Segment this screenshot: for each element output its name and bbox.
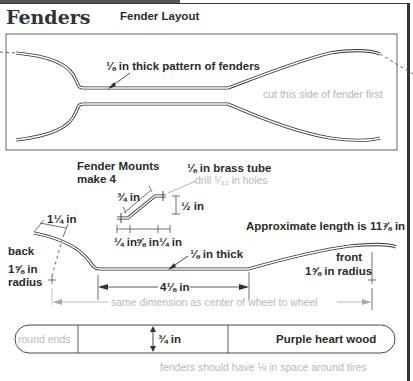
mount-diagonal-dim: ¾ in xyxy=(117,191,140,203)
lip-dim: 1¼ in xyxy=(47,213,76,225)
back-radius-unit: radius xyxy=(8,276,43,288)
tube-label: ⅛ in brass tube xyxy=(187,162,271,174)
round-ends-note: round ends xyxy=(18,333,71,345)
back-radius: 1⅝ in xyxy=(8,263,37,275)
thickness-label: ⅛ in thick xyxy=(190,248,244,260)
stock-width-dim: ¾ in xyxy=(158,333,181,345)
cut-note: cut this side of fender first xyxy=(263,88,383,100)
wheel-note: same dimension as center of wheel to whe… xyxy=(111,296,318,308)
front-radius: 1⅝ in radius xyxy=(305,265,372,277)
clearance-note: fenders should have ⅛ in space around ti… xyxy=(160,361,367,373)
front-label: front xyxy=(336,251,362,263)
mounts-title: Fender Mounts xyxy=(77,160,159,172)
mount-dim-middle: ⅝ in xyxy=(136,236,159,248)
page-title: Fenders xyxy=(6,6,90,28)
mount-dim-left: ¼ in xyxy=(114,236,137,248)
mount-height-dim: ½ in xyxy=(181,200,204,212)
material-label: Purple heart wood xyxy=(276,333,376,345)
layout-heading: Fender Layout xyxy=(120,10,199,22)
approx-length: Approximate length is 11⅞ in xyxy=(246,220,405,232)
mount-dim-right: ¼ in xyxy=(159,236,182,248)
back-label: back xyxy=(8,245,35,257)
mounts-quantity: make 4 xyxy=(77,173,117,185)
flat-length-dim: 4⅛ in xyxy=(160,281,189,293)
fender-diagram: Fenders Fender Layout ⅛ in thick pattern… xyxy=(0,0,413,381)
pattern-label: ⅛ in thick pattern of fenders xyxy=(106,60,260,72)
drill-note: drill ⁵⁄₃₂ in holes xyxy=(195,174,268,186)
